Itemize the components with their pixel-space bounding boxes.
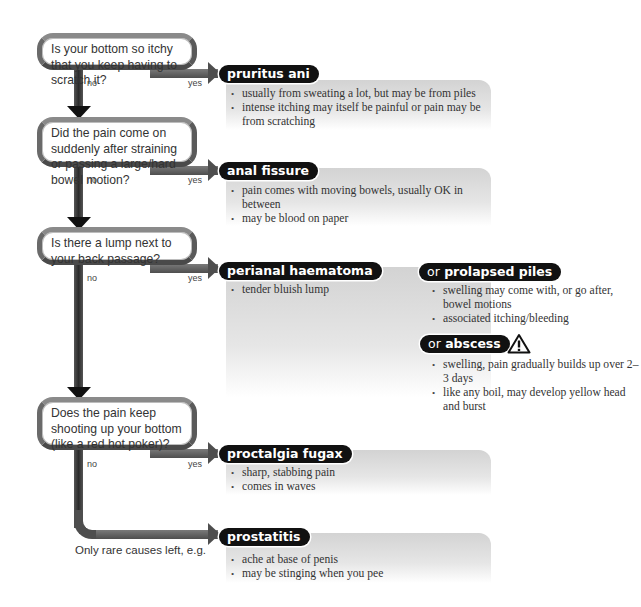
or-label: or xyxy=(427,264,440,279)
question-box-itchy: Is your bottom so itchy that you keep ha… xyxy=(37,33,197,70)
right-arrow-icon xyxy=(208,523,220,545)
or-label: or xyxy=(428,336,441,351)
piles-title: prolapsed piles xyxy=(444,264,552,279)
no-label: no xyxy=(87,459,97,469)
result-title-proctalgia: proctalgia fugax xyxy=(219,445,352,463)
list-item: ache at base of penis xyxy=(228,553,488,567)
result-title-haematoma: perianal haematoma xyxy=(219,262,382,280)
curve-corner xyxy=(74,510,98,539)
prostatitis-bullets: ache at base of penis may be stinging wh… xyxy=(228,553,488,581)
result-title-pruritus: pruritus ani xyxy=(219,65,319,83)
question-box-lump: Is there a lump next to your back passag… xyxy=(37,227,197,265)
list-item: usually from sweating a lot, but may be … xyxy=(228,87,490,101)
abscess-bullets: swelling, pain gradually builds up over … xyxy=(429,358,639,414)
list-item: sharp, stabbing pain xyxy=(228,466,488,480)
list-item: may be stinging when you pee xyxy=(228,567,488,581)
no-path-trunk-3 xyxy=(74,260,83,392)
list-item: intense itching may itself be painful or… xyxy=(228,101,490,129)
no-label: no xyxy=(87,175,97,185)
question-box-shooting-pain: Does the pain keep shooting up your bott… xyxy=(37,397,197,450)
result-title-abscess: or abscess xyxy=(420,335,510,353)
yes-label: yes xyxy=(188,78,202,88)
result-title-prostatitis: prostatitis xyxy=(219,528,310,546)
result-title-prolapsed-piles: or prolapsed piles xyxy=(419,263,561,281)
right-arrow-icon xyxy=(208,257,220,279)
piles-bullets: swelling may come with, or go after, bow… xyxy=(429,284,639,326)
result-title-fissure: anal fissure xyxy=(219,162,318,180)
fissure-bullets: pain comes with moving bowels, usually O… xyxy=(228,184,488,226)
yes-label: yes xyxy=(188,175,202,185)
pruritus-bullets: usually from sweating a lot, but may be … xyxy=(228,87,490,129)
abscess-title: abscess xyxy=(445,336,501,351)
list-item: comes in waves xyxy=(228,480,488,494)
list-item: swelling may come with, or go after, bow… xyxy=(429,284,639,312)
list-item: may be blood on paper xyxy=(228,212,488,226)
haematoma-bullets: tender bluish lump xyxy=(228,283,388,297)
yes-label: yes xyxy=(188,273,202,283)
yes-label: yes xyxy=(188,459,202,469)
list-item: swelling, pain gradually builds up over … xyxy=(429,358,639,386)
list-item: tender bluish lump xyxy=(228,283,388,297)
list-item: pain comes with moving bowels, usually O… xyxy=(228,184,488,212)
warning-triangle-icon xyxy=(507,333,531,354)
rare-causes-label: Only rare causes left, e.g. xyxy=(75,544,206,556)
question-box-sudden-pain: Did the pain come on suddenly after stra… xyxy=(37,117,197,167)
rare-line xyxy=(96,530,218,539)
proctalgia-bullets: sharp, stabbing pain comes in waves xyxy=(228,466,488,494)
list-item: associated itching/bleeding xyxy=(429,312,639,326)
no-label: no xyxy=(87,78,97,88)
no-label: no xyxy=(87,273,97,283)
list-item: like any boil, may develop yellow head a… xyxy=(429,386,639,414)
